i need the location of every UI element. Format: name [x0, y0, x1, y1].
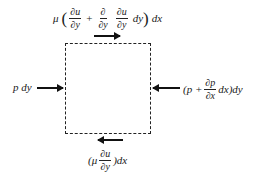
du-dy-fraction-2: ∂u ∂y — [116, 7, 128, 30]
bottom-shear-label: (μ ∂u ∂y )dx — [88, 147, 127, 173]
dx-term: dx — [152, 13, 162, 24]
dy-term: dy — [133, 13, 143, 24]
left-pressure-arrow-icon — [37, 87, 63, 89]
control-volume-box — [65, 43, 151, 134]
bottom-shear-arrow-icon — [98, 139, 123, 141]
mu-symbol: μ — [53, 13, 59, 24]
dp-dx-fraction: ∂p ∂x — [204, 78, 216, 101]
top-shear-arrow-icon — [94, 35, 120, 37]
open-paren: ( — [62, 10, 68, 27]
top-shear-label: μ ( ∂u ∂y + ∂ ∂y ∂u ∂y dy ) dx — [53, 5, 162, 31]
left-pressure-label: p dy — [13, 82, 32, 93]
plus-sign: + — [86, 13, 92, 24]
close-paren: ) — [143, 10, 149, 27]
du-dy-fraction-bottom: ∂u ∂y — [99, 149, 111, 172]
right-pressure-arrow-icon — [153, 87, 180, 89]
du-dy-fraction: ∂u ∂y — [69, 7, 81, 30]
right-pressure-label: (p + ∂p ∂x dx)dy — [183, 76, 243, 102]
partial-y-operator: ∂ ∂y — [97, 7, 108, 30]
